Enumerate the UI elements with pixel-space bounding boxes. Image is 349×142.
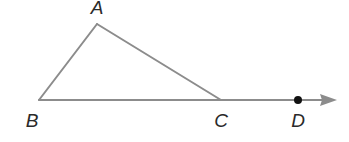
segment-ab	[39, 24, 97, 100]
label-b: B	[26, 110, 39, 131]
segment-ac	[97, 24, 221, 100]
geometry-diagram: A B C D	[0, 0, 349, 142]
point-d-dot	[294, 96, 302, 104]
label-a: A	[90, 0, 104, 18]
arrowhead-icon	[320, 94, 337, 106]
label-c: C	[214, 110, 228, 131]
label-d: D	[291, 110, 305, 131]
